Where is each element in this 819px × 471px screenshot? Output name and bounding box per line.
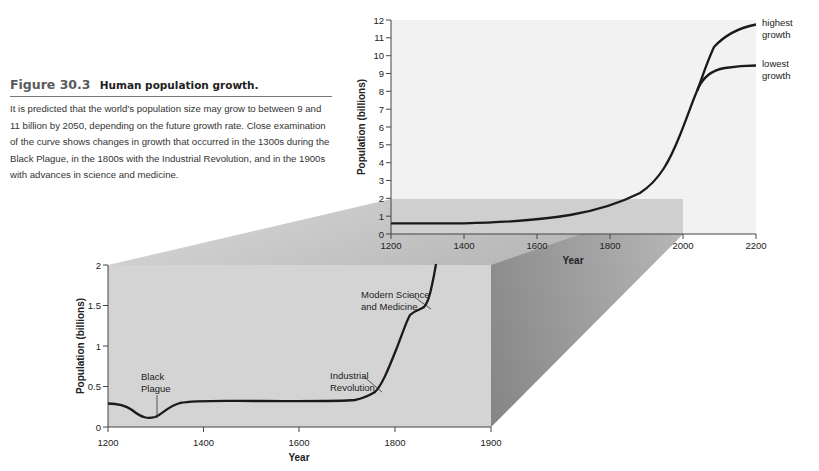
ytick-label: 0 <box>96 422 101 433</box>
xtick-label: 1800 <box>384 437 405 448</box>
xtick-label: 2200 <box>745 240 766 251</box>
xtick-label: 2000 <box>672 240 693 251</box>
ytick-label: 2 <box>96 260 101 271</box>
ytick-label: 5 <box>379 139 384 150</box>
annotation-text: Modern Science <box>361 289 430 300</box>
ytick-label: 2 <box>379 193 384 204</box>
annotation-text: Industrial <box>330 370 369 381</box>
top-y-axis-title: Population (billions) <box>356 79 367 175</box>
ytick-label: 1.5 <box>88 300 101 311</box>
label-highest-growth: growth <box>762 29 791 40</box>
ytick-label: 8 <box>379 86 384 97</box>
annotation-text: and Medicine <box>361 301 418 312</box>
bottom-plot-area <box>108 265 491 427</box>
ytick-label: 4 <box>379 157 384 168</box>
xtick-label: 1400 <box>453 240 474 251</box>
bottom-y-axis-title: Population (billions) <box>75 298 86 394</box>
top-x-axis-title: Year <box>562 255 583 266</box>
ytick-label: 3 <box>379 175 384 186</box>
bottom-y-tick-labels: 0 0.5 1 1.5 2 <box>88 260 101 433</box>
label-lowest-growth: growth <box>762 70 791 81</box>
bottom-x-axis-title: Year <box>288 452 309 463</box>
bottom-x-axis <box>108 427 491 432</box>
annotation-text: Black <box>141 371 164 382</box>
xtick-label: 1200 <box>380 240 401 251</box>
xtick-label: 1600 <box>288 437 309 448</box>
ytick-label: 11 <box>374 32 384 43</box>
top-legend-labels: highest growth lowest growth <box>762 17 793 81</box>
bottom-y-axis <box>103 265 108 427</box>
ytick-label: 12 <box>373 15 384 26</box>
bottom-x-tick-labels: 1200 1400 1600 1800 1900 <box>97 437 501 448</box>
ytick-label: 1 <box>96 341 101 352</box>
ytick-label: 9 <box>379 68 384 79</box>
ytick-label: 7 <box>379 104 384 115</box>
ytick-label: 0 <box>379 229 384 240</box>
ytick-label: 10 <box>373 50 384 61</box>
ytick-label: 0.5 <box>88 381 101 392</box>
highlight-band <box>391 199 683 234</box>
label-highest-growth: highest <box>762 17 793 28</box>
ytick-label: 6 <box>379 122 384 133</box>
ytick-label: 1 <box>379 211 384 222</box>
population-figure: 0 1 2 3 4 5 6 7 8 9 10 11 12 1200 1400 1… <box>0 0 819 471</box>
xtick-label: 1800 <box>599 240 620 251</box>
annotation-text: Revolution <box>330 382 375 393</box>
annotation-text: Plague <box>141 383 171 394</box>
xtick-label: 1600 <box>526 240 547 251</box>
xtick-label: 1400 <box>193 437 214 448</box>
xtick-label: 1900 <box>480 437 501 448</box>
label-lowest-growth: lowest <box>762 58 789 69</box>
xtick-label: 1200 <box>97 437 118 448</box>
